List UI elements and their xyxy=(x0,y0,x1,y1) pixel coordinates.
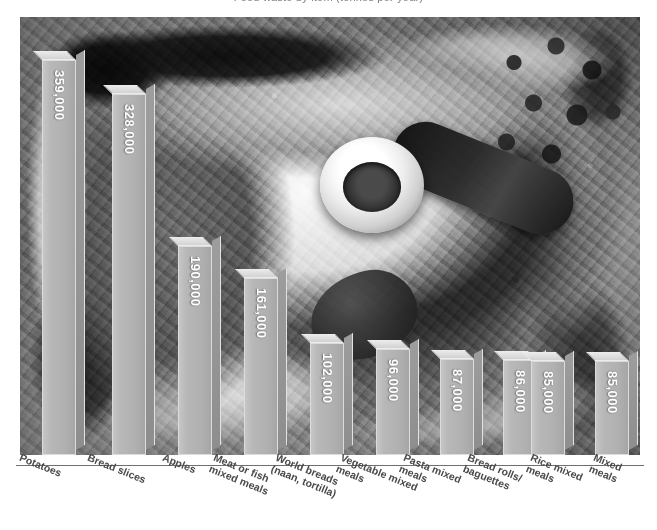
x-axis-labels: PotatoesBread slicesApplesMeat or fish m… xyxy=(0,452,657,530)
bar-value-label: 96,000 xyxy=(386,359,401,402)
x-axis-label-4: Meat or fish mixed meals xyxy=(207,452,274,497)
bar-side-face xyxy=(278,268,287,450)
x-axis-label-2: Bread slices xyxy=(86,452,148,486)
bar-top-face xyxy=(103,85,146,94)
bar-side-face xyxy=(474,349,483,450)
bar-5[interactable]: 102,000 xyxy=(310,343,344,455)
bar-3[interactable]: 190,000 xyxy=(178,246,212,455)
bar-top-face xyxy=(301,334,344,343)
bar-6[interactable]: 96,000 xyxy=(376,349,410,455)
chart-figure: Food waste by item (tonnes per year) 359… xyxy=(0,0,657,530)
bar-2[interactable]: 328,000 xyxy=(112,94,146,455)
bar-value-label: 85,000 xyxy=(541,371,556,414)
bar-side-face xyxy=(410,339,419,450)
bar-value-label: 190,000 xyxy=(188,256,203,307)
bar-9[interactable]: 85,000 xyxy=(531,361,565,455)
x-axis-label-8: Bread rolls/ baguettes xyxy=(461,452,523,495)
bar-top-face xyxy=(431,350,474,359)
bar-side-face xyxy=(565,351,574,450)
x-axis-label-9: Rice mixed meals xyxy=(524,452,584,494)
bar-value-label: 328,000 xyxy=(122,104,137,155)
bar-value-label: 87,000 xyxy=(450,369,465,412)
plot-area: 359,000328,000190,000161,000102,00096,00… xyxy=(20,17,640,455)
bar-value-label: 161,000 xyxy=(254,288,269,339)
bar-side-face xyxy=(146,84,155,450)
bar-value-label: 85,000 xyxy=(605,371,620,414)
bar-top-face xyxy=(235,269,278,278)
bar-value-label: 86,000 xyxy=(513,370,528,413)
bar-4[interactable]: 161,000 xyxy=(244,278,278,455)
bar-top-face xyxy=(586,352,629,361)
bar-side-face xyxy=(76,50,85,450)
bar-10[interactable]: 85,000 xyxy=(595,361,629,455)
bar-value-label: 359,000 xyxy=(52,70,67,121)
chart-title-cutoff: Food waste by item (tonnes per year) xyxy=(0,0,657,3)
bar-value-label: 102,000 xyxy=(320,353,335,404)
x-axis-label-1: Potatoes xyxy=(18,452,63,479)
bar-top-face xyxy=(367,340,410,349)
bar-7[interactable]: 87,000 xyxy=(440,359,474,455)
x-axis-label-5: World breads (naan, tortilla) xyxy=(269,452,342,499)
bar-side-face xyxy=(344,333,353,450)
x-axis-label-3: Apples xyxy=(161,452,198,476)
bar-top-face xyxy=(33,51,76,60)
bar-1[interactable]: 359,000 xyxy=(42,60,76,455)
bar-side-face xyxy=(212,236,221,450)
bar-top-face xyxy=(169,237,212,246)
bar-side-face xyxy=(629,351,638,450)
x-axis-label-10: Mixed meals xyxy=(587,452,652,496)
